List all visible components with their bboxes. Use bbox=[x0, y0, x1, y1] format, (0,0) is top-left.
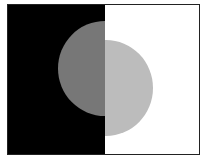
right-half-circle-shape bbox=[105, 40, 153, 136]
illusion-frame: gray half-circle on black gray half-circ… bbox=[7, 4, 200, 155]
right-half-circle: gray half-circle on white bbox=[105, 40, 153, 136]
left-half-circle: gray half-circle on black bbox=[58, 21, 105, 116]
left-half-circle-shape bbox=[58, 21, 105, 116]
